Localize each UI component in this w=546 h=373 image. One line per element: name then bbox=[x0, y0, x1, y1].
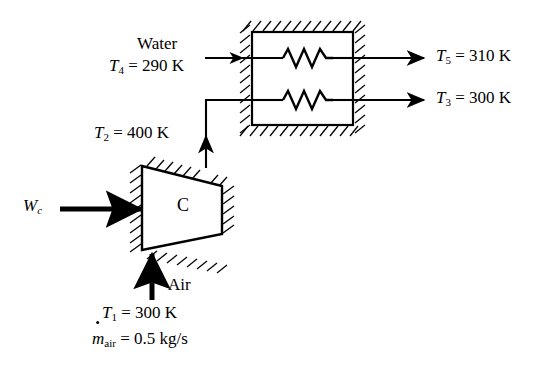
mass-flow-subscript: air bbox=[104, 337, 116, 349]
work-input-label: Wc bbox=[23, 197, 42, 215]
work-input-symbol: W bbox=[23, 196, 37, 215]
air-outlet-temp-subscript: 3 bbox=[445, 96, 451, 108]
work-input-subscript: c bbox=[37, 204, 42, 216]
air-mass-flow-label: mair = 0.5 kg/s bbox=[92, 330, 188, 348]
air-outlet-temperature-label: T3 = 300 K bbox=[436, 89, 511, 107]
heat-exchanger-body bbox=[252, 32, 353, 125]
water-inlet-temperature-label: T4 = 290 K bbox=[109, 57, 184, 75]
air-inlet-temperature-label: T1 = 300 K bbox=[102, 304, 177, 322]
mass-flow-symbol: m bbox=[92, 329, 104, 348]
diagram-canvas: Water T4 = 290 K T5 = 310 K T3 = 300 K T… bbox=[0, 0, 546, 373]
compressor bbox=[130, 157, 234, 273]
compressor-outlet-temp-subscript: 2 bbox=[103, 131, 109, 143]
hatch-compressor-bottom bbox=[147, 251, 227, 273]
hatch-hx-right bbox=[355, 25, 365, 133]
hatch-hx-left bbox=[240, 25, 250, 133]
hatch-hx-top bbox=[243, 21, 361, 31]
heat-exchanger-coil-top bbox=[283, 49, 333, 67]
heat-exchanger bbox=[240, 21, 365, 136]
mass-flow-dot-accent: m bbox=[92, 330, 104, 348]
hatch-hx-bottom bbox=[240, 126, 358, 136]
water-outlet-temp-value: = 310 K bbox=[455, 46, 511, 65]
air-inlet-temp-subscript: 1 bbox=[111, 311, 117, 323]
mass-flow-value: = 0.5 kg/s bbox=[120, 329, 188, 348]
water-outlet-temp-subscript: 5 bbox=[445, 54, 451, 66]
compressor-label: C bbox=[177, 196, 189, 215]
water-outlet-temperature-label: T5 = 310 K bbox=[436, 47, 511, 65]
water-inlet-temp-subscript: 4 bbox=[118, 64, 124, 76]
air-outlet-temp-value: = 300 K bbox=[455, 88, 511, 107]
air-fluid-label: Air bbox=[168, 276, 191, 294]
compressor-discharge-pipe bbox=[205, 100, 252, 168]
water-stream-line bbox=[205, 49, 424, 67]
air-inlet-temp-value: = 300 K bbox=[121, 303, 177, 322]
water-inlet-temp-value: = 290 K bbox=[128, 56, 184, 75]
compressor-outlet-temp-value: = 400 K bbox=[113, 123, 169, 142]
air-stream-line-hx bbox=[252, 91, 424, 109]
water-fluid-label: Water bbox=[137, 35, 177, 53]
heat-exchanger-coil-bottom bbox=[283, 91, 333, 109]
compressor-outlet-temperature-label: T2 = 400 K bbox=[94, 124, 169, 142]
hatch-compressor-right bbox=[223, 186, 234, 233]
